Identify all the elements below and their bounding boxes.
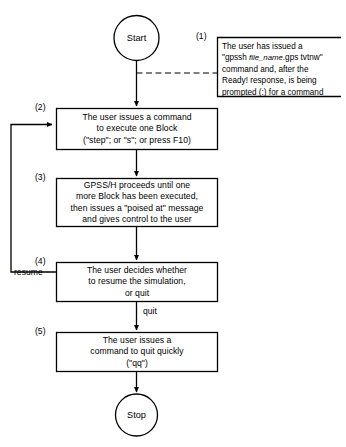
note-filename-italic: file_name bbox=[249, 53, 283, 62]
note-line-5: prompted (:) for a command bbox=[222, 87, 323, 98]
stop-terminal-text: Stop bbox=[127, 410, 146, 420]
note-line-2: "gpssh file_name.gps tvtnw" bbox=[222, 52, 323, 63]
edge-label-quit: quit bbox=[143, 306, 157, 316]
start-terminal-label: Start bbox=[114, 30, 159, 46]
note-line-1: The user has issued a bbox=[222, 41, 323, 52]
step-number-3: (3) bbox=[35, 172, 46, 182]
note-line-3: command and, after the bbox=[222, 64, 323, 75]
step2-box-shape bbox=[57, 109, 218, 150]
step-number-4: (4) bbox=[35, 256, 46, 266]
step5-box-shape bbox=[57, 333, 218, 372]
note-box-1-text: The user has issued a "gpssh file_name.g… bbox=[222, 41, 323, 98]
flowchart-canvas: Start (1) The user has issued a "gpssh f… bbox=[0, 0, 346, 447]
stop-terminal-label: Stop bbox=[114, 407, 159, 423]
step3-box-shape bbox=[57, 179, 218, 227]
step-number-5: (5) bbox=[35, 326, 46, 336]
connector-resume-feedback-loop bbox=[11, 125, 57, 273]
step-number-1: (1) bbox=[196, 31, 207, 41]
start-terminal-text: Start bbox=[127, 33, 146, 43]
edge-label-resume: resume bbox=[14, 267, 43, 277]
step-number-2: (2) bbox=[35, 102, 46, 112]
step4-box-shape bbox=[57, 263, 218, 302]
note-line-4: Ready! response, is being bbox=[222, 75, 323, 86]
